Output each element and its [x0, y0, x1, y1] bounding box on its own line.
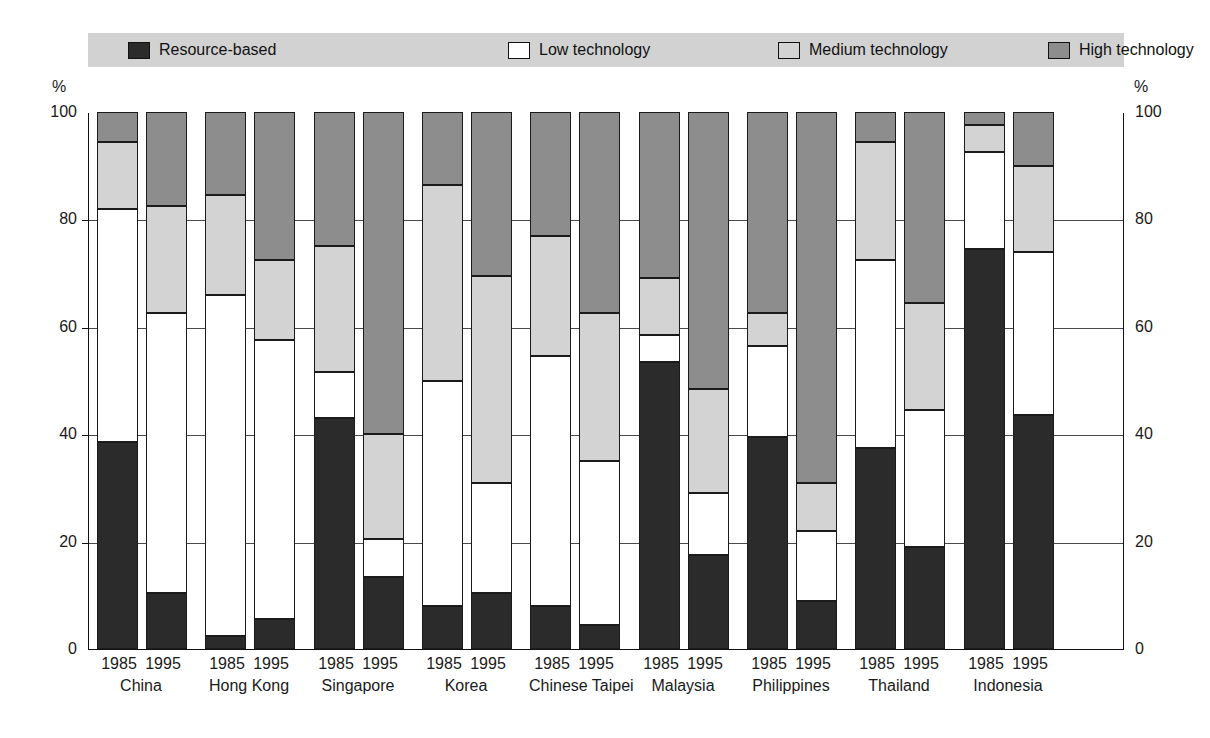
bar-segment-low	[422, 381, 463, 607]
x-label-group-hong-kong: 19851995Hong Kong	[204, 655, 294, 697]
bar-segment-medium	[1013, 166, 1054, 252]
bar-segment-low	[579, 461, 620, 625]
bar-segment-high	[363, 112, 404, 434]
x-axis-years: 19851995	[96, 655, 186, 673]
bar-segment-low	[146, 313, 187, 592]
x-axis-year-1985: 1985	[964, 655, 1008, 673]
bar-group-indonesia	[964, 113, 1067, 649]
x-axis-years: 19851995	[963, 655, 1053, 673]
bar-segment-high	[254, 112, 295, 260]
x-axis-year-1985: 1985	[855, 655, 899, 673]
bar-segment-high	[422, 112, 463, 184]
bar-segment-high	[796, 112, 837, 483]
bar-segment-medium	[747, 313, 788, 345]
bar-group-thailand	[855, 113, 958, 649]
x-axis-economy-label: Indonesia	[963, 676, 1053, 697]
x-label-group-chinese-taipei: 19851995Chinese Taipei	[529, 655, 619, 697]
bar-segment-resource	[471, 593, 512, 649]
y-axis-tick-right-60: 60	[1135, 318, 1153, 336]
bar-singapore-1995	[363, 113, 404, 649]
x-label-group-singapore: 19851995Singapore	[313, 655, 403, 697]
bar-segment-high	[964, 112, 1005, 125]
x-axis-year-1995: 1995	[249, 655, 293, 673]
bar-segment-resource	[904, 547, 945, 649]
legend-item-low: Low technology	[508, 42, 650, 59]
bar-malaysia-1985	[639, 113, 680, 649]
bar-segment-high	[314, 112, 355, 246]
bar-segment-resource	[579, 625, 620, 649]
bar-korea-1995	[471, 113, 512, 649]
y-axis-tick-left-60: 60	[59, 318, 77, 336]
bar-philippines-1985	[747, 113, 788, 649]
legend-swatch-high-icon	[1048, 42, 1070, 59]
bar-chinese-taipei-1995	[579, 113, 620, 649]
x-label-group-korea: 19851995Korea	[421, 655, 511, 697]
x-axis-year-1995: 1995	[791, 655, 835, 673]
y-axis-tick-left-20: 20	[59, 533, 77, 551]
bar-segment-medium	[146, 206, 187, 313]
bar-china-1995	[146, 113, 187, 649]
y-axis-tick-left-100: 100	[50, 103, 77, 121]
x-axis-economy-label: Malaysia	[638, 676, 728, 697]
x-axis-years: 19851995	[313, 655, 403, 673]
legend-label-resource: Resource-based	[159, 42, 276, 58]
legend-swatch-low-icon	[508, 42, 530, 59]
y-axis-tick-right-40: 40	[1135, 425, 1153, 443]
bar-singapore-1985	[314, 113, 355, 649]
x-axis-economy-label: Hong Kong	[204, 676, 294, 697]
bar-segment-low	[904, 410, 945, 547]
x-axis-years: 19851995	[529, 655, 619, 673]
bar-indonesia-1985	[964, 113, 1005, 649]
bar-segment-low	[1013, 252, 1054, 416]
y-tick-mark-40	[82, 435, 89, 436]
x-axis-economy-label: China	[96, 676, 186, 697]
bar-segment-resource	[146, 593, 187, 649]
y-axis-unit-left: %	[52, 78, 66, 96]
x-axis-year-1995: 1995	[1008, 655, 1052, 673]
chart-legend: Resource-basedLow technologyMedium techn…	[88, 33, 1124, 67]
x-axis-economy-label: Korea	[421, 676, 511, 697]
y-tick-mark-60	[82, 328, 89, 329]
bar-segment-medium	[205, 195, 246, 294]
bar-thailand-1985	[855, 113, 896, 649]
bar-segment-high	[471, 112, 512, 276]
bar-segment-medium	[363, 434, 404, 539]
bar-segment-high	[747, 112, 788, 313]
bar-segment-high	[205, 112, 246, 195]
bar-segment-low	[97, 209, 138, 443]
x-axis-year-1985: 1985	[205, 655, 249, 673]
y-axis-tick-left-80: 80	[59, 210, 77, 228]
bar-segment-resource	[747, 437, 788, 649]
x-axis-labels: 19851995China19851995Hong Kong19851995Si…	[88, 655, 1124, 725]
bar-segment-medium	[688, 389, 729, 494]
bar-segment-resource	[205, 636, 246, 649]
bar-segment-low	[254, 340, 295, 619]
bar-segment-resource	[97, 442, 138, 649]
bar-segment-high	[904, 112, 945, 303]
legend-label-low: Low technology	[539, 42, 650, 58]
x-axis-economy-label: Thailand	[854, 676, 944, 697]
y-axis-tick-right-100: 100	[1135, 103, 1162, 121]
x-axis-years: 19851995	[421, 655, 511, 673]
bar-segment-low	[688, 493, 729, 555]
x-axis-year-1995: 1995	[574, 655, 618, 673]
bar-segment-medium	[471, 276, 512, 483]
bar-segment-medium	[796, 483, 837, 531]
legend-item-medium: Medium technology	[778, 42, 948, 59]
x-label-group-thailand: 19851995Thailand	[854, 655, 944, 697]
bar-segment-low	[796, 531, 837, 601]
x-axis-economy-label: Philippines	[746, 676, 836, 697]
bar-segment-high	[1013, 112, 1054, 166]
legend-swatch-resource-icon	[128, 42, 150, 59]
y-axis-tick-right-80: 80	[1135, 210, 1153, 228]
legend-item-high: High technology	[1048, 42, 1194, 59]
legend-label-medium: Medium technology	[809, 42, 948, 58]
bar-segment-medium	[855, 142, 896, 260]
bar-segment-medium	[964, 125, 1005, 152]
bar-segment-medium	[530, 236, 571, 357]
bar-segment-low	[639, 335, 680, 362]
bar-segment-low	[747, 346, 788, 437]
x-axis-year-1995: 1995	[141, 655, 185, 673]
bar-segment-low	[314, 372, 355, 418]
x-label-group-indonesia: 19851995Indonesia	[963, 655, 1053, 697]
